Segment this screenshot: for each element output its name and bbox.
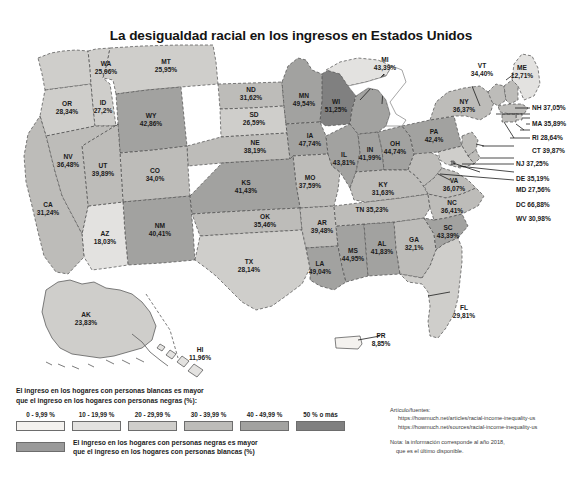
state-SD xyxy=(220,106,287,137)
state-MN xyxy=(282,58,326,124)
legend-bin: 10 - 19,99 % xyxy=(72,411,121,431)
source-url-sources[interactable]: https://howmuch.net/sources/racial-incom… xyxy=(390,423,575,431)
map-svg: .b0{fill:#f4f2ef}.b1{fill:#e3e2e0}.b2{fi… xyxy=(10,44,572,384)
state-CO xyxy=(120,146,190,202)
legend-bin: 20 - 29,99 % xyxy=(128,411,177,431)
legend-reverse-text: El ingreso en los hogares con personas n… xyxy=(73,438,258,457)
legend-bin-label: 30 - 39,99 % xyxy=(184,411,233,418)
source-url-article[interactable]: https://howmuch.net/articles/racial-inco… xyxy=(390,414,575,422)
choropleth-map: .b0{fill:#f4f2ef}.b1{fill:#e3e2e0}.b2{fi… xyxy=(10,44,572,384)
state-ND xyxy=(218,82,284,109)
legend-bin: 50 % o más xyxy=(296,411,345,431)
legend-bin-label: 50 % o más xyxy=(296,411,345,418)
state-HI xyxy=(157,344,203,377)
legend-reverse: El ingreso en los hogares con personas n… xyxy=(16,438,356,457)
legend-bin-label: 0 - 9,99 % xyxy=(16,411,65,418)
state-AZ xyxy=(82,202,128,270)
state-AL xyxy=(364,222,400,276)
legend-bin-label: 40 - 49,99 % xyxy=(240,411,289,418)
state-MA xyxy=(498,104,528,114)
legend-swatch xyxy=(240,421,289,431)
ak-islands xyxy=(46,358,144,369)
state-CT xyxy=(502,114,516,122)
legend-scale: 0 - 9,99 % 10 - 19,99 % 20 - 29,99 % 30 … xyxy=(16,411,356,431)
infographic-canvas: La desigualdad racial en los ingresos en… xyxy=(0,0,582,478)
legend: El ingreso en los hogares con personas b… xyxy=(16,386,356,457)
note-line-2: que es el último disponible. xyxy=(390,447,575,455)
sources-notes: Artículo/fuentes: https://howmuch.net/ar… xyxy=(390,406,575,455)
legend-bin: 0 - 9,99 % xyxy=(16,411,65,431)
legend-swatch xyxy=(296,421,345,431)
state-AR xyxy=(300,206,338,248)
legend-swatch xyxy=(72,421,121,431)
state-IA xyxy=(286,122,328,159)
state-RI xyxy=(516,114,522,120)
state-MT xyxy=(103,45,218,94)
legend-bin: 40 - 49,99 % xyxy=(240,411,289,431)
sources-label: Artículo/fuentes: xyxy=(390,406,575,414)
legend-swatch xyxy=(16,421,65,431)
legend-bin-label: 10 - 19,99 % xyxy=(72,411,121,418)
state-NM xyxy=(123,196,195,265)
state-PR xyxy=(335,336,362,349)
legend-swatch-reverse xyxy=(16,442,65,452)
legend-header: El ingreso en los hogares con personas b… xyxy=(16,386,356,405)
state-WY xyxy=(116,87,187,153)
legend-swatch xyxy=(184,421,233,431)
state-NY xyxy=(430,86,494,120)
state-WA xyxy=(38,50,91,90)
state-TX xyxy=(195,230,310,310)
page-title: La desigualdad racial en los ingresos en… xyxy=(0,28,582,43)
state-AK xyxy=(42,280,156,358)
note-line-1: Nota: la información corresponde al año … xyxy=(390,438,575,446)
legend-bin: 30 - 39,99 % xyxy=(184,411,233,431)
legend-swatch xyxy=(128,421,177,431)
legend-bin-label: 20 - 29,99 % xyxy=(128,411,177,418)
